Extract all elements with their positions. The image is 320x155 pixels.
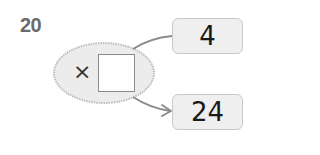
input-value-box: 4 xyxy=(172,18,243,54)
answer-blank-input[interactable] xyxy=(98,54,135,92)
bottom-arrow-line xyxy=(133,97,170,111)
multiply-icon: × xyxy=(73,60,91,84)
output-value-box: 24 xyxy=(172,94,243,130)
top-connector-line xyxy=(133,36,172,49)
